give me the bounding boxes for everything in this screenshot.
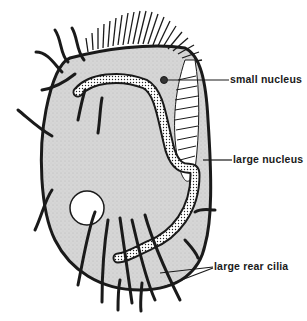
label-large-rear-cilia: large rear cilia bbox=[214, 260, 288, 272]
contractile-vacuole bbox=[70, 191, 104, 225]
small-nucleus bbox=[161, 77, 168, 84]
label-small-nucleus: small nucleus bbox=[230, 73, 302, 85]
label-large-nucleus: large nucleus bbox=[233, 153, 303, 165]
